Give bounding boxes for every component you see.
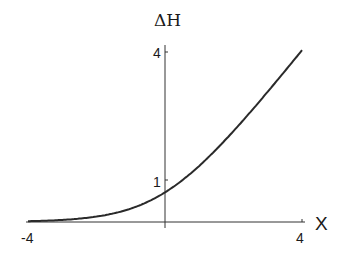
x-tick-label-min: -4 (21, 230, 34, 246)
x-axis-label: X (315, 213, 328, 234)
x-tick-label-max: 4 (296, 230, 304, 246)
y-tick-label-1: 1 (153, 174, 161, 190)
y-axis-label: ΔH (154, 10, 181, 30)
chart: ΔH 4 1 -4 4 X (0, 0, 345, 254)
y-tick-label-4: 4 (153, 45, 161, 61)
